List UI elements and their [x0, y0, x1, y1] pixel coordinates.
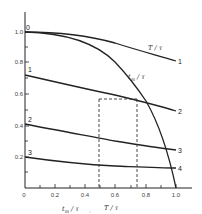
- curve-1: [25, 75, 176, 111]
- curve-name-tm-over-tau: tm / τ: [128, 73, 145, 82]
- x-axis-label-T-over-tau: T / τ: [104, 204, 119, 212]
- curve-label-1-end: 1: [178, 58, 182, 65]
- curve-2: [25, 124, 176, 150]
- y-tick-label: 0.2: [15, 154, 24, 160]
- x-axis-label-separator: ,: [89, 207, 91, 213]
- curve-label-1-start: 1: [28, 66, 32, 73]
- x-tick-label: 0.6: [111, 192, 120, 198]
- curve-label-2-end: 2: [178, 108, 182, 115]
- x-tick-label: 0.8: [142, 192, 151, 198]
- y-tick-label: 0.6: [15, 91, 24, 97]
- x-tick-label: 0.4: [81, 192, 90, 198]
- curve-label-2-start: 2: [28, 116, 32, 123]
- curve-label-3-end: 3: [178, 147, 182, 154]
- curve-name-T-over-tau: T / τ: [148, 44, 163, 52]
- y-tick-label: 0.4: [15, 123, 24, 129]
- y-tick-label: 1.0: [15, 29, 24, 35]
- x-ticks: [40, 184, 176, 188]
- curve-label-4-end: 4: [178, 165, 182, 172]
- curve-label-0: 0: [26, 24, 30, 31]
- x-tick-label: 1.0: [172, 192, 181, 198]
- x-tick-label: 0.2: [51, 192, 60, 198]
- curve-3: [25, 157, 176, 168]
- x-tick-label: 0: [22, 192, 26, 198]
- y-tick-label: 0.8: [15, 59, 24, 65]
- chart: 1.0 0.8 0.6 0.4 0.2 0 0.2 0.4 0.6 0.8 1.…: [0, 0, 202, 214]
- curve-label-3-start: 3: [28, 149, 32, 156]
- x-axis-label-tm-over-tau: tm / τ: [62, 205, 79, 214]
